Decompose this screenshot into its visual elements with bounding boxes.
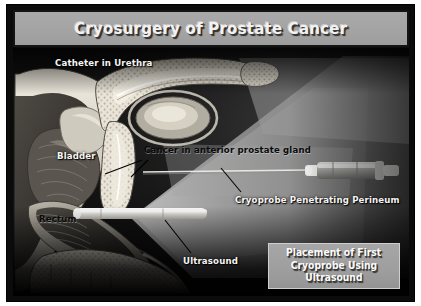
caption-line-3: Ultrasound: [305, 272, 362, 285]
label-cryoprobe-penetrating-perineum: Cryoprobe Penetrating Perineum: [235, 195, 400, 205]
medical-illustration: Catheter in Urethra Bladder Cancer in an…: [13, 48, 409, 296]
slide: Cryosurgery of Prostate Cancer: [0, 0, 421, 306]
caption-box: Placement of First Cryoprobe Using Ultra…: [268, 243, 400, 289]
label-ultrasound: Ultrasound: [183, 256, 238, 266]
label-cancer-in-anterior-prostate-gland: Cancer in anterior prostate gland: [144, 145, 311, 155]
label-rectum: Rectum: [39, 214, 77, 224]
page-title: Cryosurgery of Prostate Cancer: [74, 20, 347, 38]
caption-line-2: Cryoprobe Using: [291, 260, 377, 273]
caption-line-1: Placement of First: [286, 247, 381, 260]
label-bladder: Bladder: [57, 151, 96, 161]
title-bar: Cryosurgery of Prostate Cancer: [13, 10, 409, 47]
label-catheter-in-urethra: Catheter in Urethra: [55, 58, 153, 68]
